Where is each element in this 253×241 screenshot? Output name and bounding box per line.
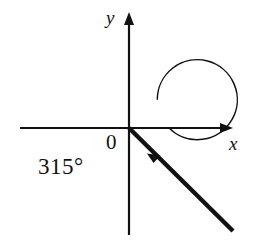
terminal-side-ray: [129, 128, 233, 231]
x-axis-label: x: [229, 134, 237, 153]
y-axis-label: y: [106, 8, 114, 27]
y-axis-arrowhead: [124, 12, 134, 25]
angle-measure-label: 315°: [38, 155, 84, 178]
angle-diagram: y x 0 315°: [0, 0, 253, 241]
coordinate-plane-svg: [0, 0, 253, 241]
origin-label: 0: [106, 132, 117, 153]
